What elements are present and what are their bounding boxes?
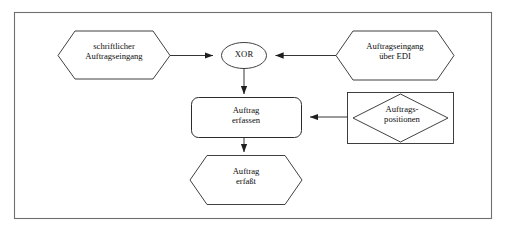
epc-diagram: schriftlicher Auftragseingang XOR Auftra… <box>0 0 509 233</box>
diagram-canvas <box>0 0 509 233</box>
